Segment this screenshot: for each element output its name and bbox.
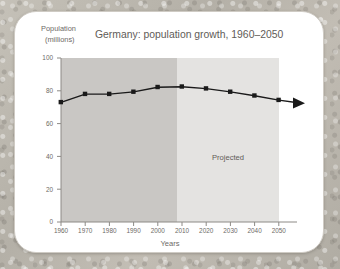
population-line-chart: 100 80 60 40 20 0 1960 1970 1980 1990 20… — [15, 12, 323, 252]
projected-band-label: Projected — [212, 153, 244, 162]
historical-band — [61, 58, 177, 222]
y-tick-label-100: 100 — [42, 54, 53, 61]
y-axis-label-line1: Population — [41, 24, 76, 33]
projected-band — [177, 58, 279, 222]
x-tick-label-1980: 1980 — [102, 227, 117, 234]
x-axis-ticks — [61, 222, 279, 226]
data-point-1990 — [131, 90, 135, 94]
data-point-1970 — [83, 92, 87, 96]
x-axis-label: Years — [160, 239, 179, 248]
data-point-1980 — [107, 92, 111, 96]
data-point-2000 — [155, 85, 159, 89]
y-tick-label-60: 60 — [46, 120, 54, 127]
data-point-2020 — [204, 86, 208, 90]
chart-card: 100 80 60 40 20 0 1960 1970 1980 1990 20… — [14, 11, 324, 253]
data-point-2010 — [180, 84, 184, 88]
x-tick-label-2020: 2020 — [199, 227, 214, 234]
data-point-2050 — [276, 98, 280, 102]
data-point-2030 — [228, 90, 232, 94]
x-tick-label-2040: 2040 — [247, 227, 262, 234]
y-tick-label-0: 0 — [49, 218, 53, 225]
x-tick-label-2050: 2050 — [272, 227, 287, 234]
y-axis-label-line2: (millions) — [45, 35, 75, 44]
chart-title: Germany: population growth, 1960–2050 — [95, 29, 284, 40]
y-tick-label-20: 20 — [46, 186, 54, 193]
x-tick-label-1960: 1960 — [54, 227, 69, 234]
line-arrowhead-icon — [293, 98, 305, 109]
x-tick-label-1990: 1990 — [126, 227, 141, 234]
data-point-1960 — [59, 100, 63, 104]
x-tick-label-2010: 2010 — [175, 227, 190, 234]
data-point-2040 — [252, 93, 256, 97]
x-tick-label-2000: 2000 — [151, 227, 166, 234]
y-tick-label-80: 80 — [46, 87, 54, 94]
y-tick-label-40: 40 — [46, 153, 54, 160]
x-tick-label-1970: 1970 — [78, 227, 93, 234]
x-tick-label-2030: 2030 — [223, 227, 238, 234]
y-axis-ticks — [57, 58, 61, 222]
